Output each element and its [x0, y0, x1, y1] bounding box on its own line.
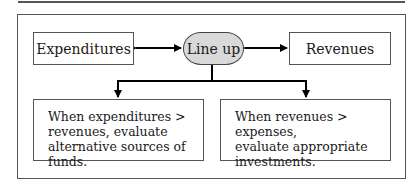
outcome-left-line: When expenditures > [48, 109, 203, 124]
line-up-label: Line up [187, 41, 241, 57]
expenditures-node: Expenditures [33, 32, 134, 65]
outcome-right-line: investments. [235, 154, 390, 169]
revenues-label: Revenues [306, 41, 375, 57]
outcome-left-line: alternative sources of funds. [48, 139, 203, 169]
outcome-left-line: revenues, evaluate [48, 124, 203, 139]
expenditures-label: Expenditures [36, 41, 131, 57]
outcome-left-box: When expenditures > revenues, evaluate a… [33, 99, 204, 161]
line-up-node: Line up [183, 32, 244, 65]
outcome-right-line: When revenues > expenses, [235, 109, 390, 139]
outcome-right-line: evaluate appropriate [235, 139, 390, 154]
outcome-right-box: When revenues > expenses, evaluate appro… [220, 99, 391, 161]
revenues-node: Revenues [289, 32, 391, 65]
